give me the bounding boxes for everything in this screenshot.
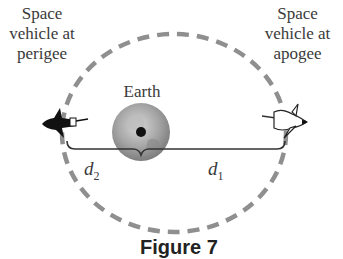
distance-d1-label: d1 <box>208 158 224 184</box>
perigee-label-line: Space <box>0 4 84 24</box>
perigee-label: Space vehicle at perigee <box>0 4 84 64</box>
distance-d2-label: d2 <box>84 158 100 184</box>
d2-variable: d <box>84 158 94 179</box>
earth-icon <box>112 103 170 161</box>
apogee-label-line: vehicle at <box>252 24 343 44</box>
apogee-label: Space vehicle at apogee <box>252 4 343 64</box>
d1-variable: d <box>208 158 218 179</box>
perigee-label-line: perigee <box>0 44 84 64</box>
figure-caption: Figure 7 <box>140 236 218 259</box>
d1-subscript: 1 <box>218 169 224 183</box>
perigee-label-line: vehicle at <box>0 24 84 44</box>
distance-brace <box>67 141 285 155</box>
apogee-label-line: Space <box>252 4 343 24</box>
d2-subscript: 2 <box>94 169 100 183</box>
earth-label: Earth <box>114 82 170 102</box>
apogee-label-line: apogee <box>252 44 343 64</box>
shuttle-perigee-icon <box>42 108 88 138</box>
